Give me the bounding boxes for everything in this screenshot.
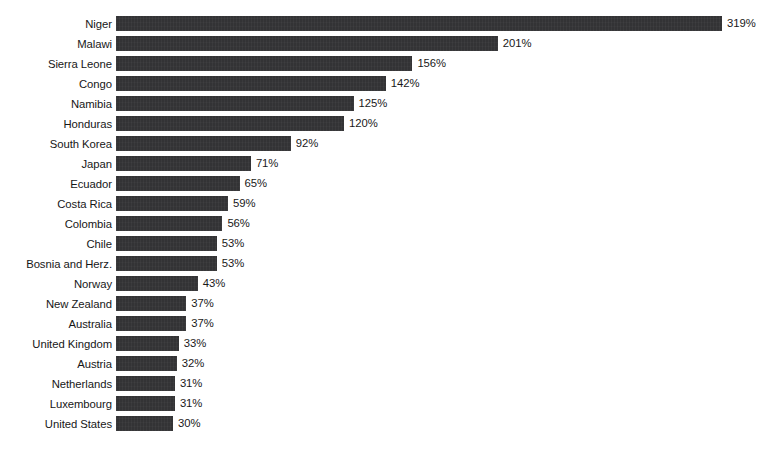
bar-row: United States30%	[0, 414, 777, 434]
bar	[116, 416, 173, 431]
bar-category-label: New Zealand	[0, 294, 112, 314]
bar-category-label: Niger	[0, 14, 112, 34]
bar-value-label: 37%	[191, 296, 213, 311]
bar-value-label: 53%	[222, 256, 244, 271]
bar-value-label: 30%	[178, 416, 200, 431]
bar	[116, 276, 198, 291]
bar-category-label: Chile	[0, 234, 112, 254]
bar-row: Namibia125%	[0, 94, 777, 114]
bar-value-label: 142%	[391, 76, 420, 91]
bar	[116, 136, 291, 151]
bar-and-value: 30%	[116, 414, 200, 434]
bar-and-value: 37%	[116, 314, 214, 334]
bar-and-value: 65%	[116, 174, 267, 194]
bar-category-label: Ecuador	[0, 174, 112, 194]
bar-row: Luxembourg31%	[0, 394, 777, 414]
bar	[116, 316, 186, 331]
bar-value-label: 120%	[349, 116, 378, 131]
bar-category-label: United States	[0, 414, 112, 434]
bar-row: Chile53%	[0, 234, 777, 254]
bar-row: Honduras120%	[0, 114, 777, 134]
bar-row: Sierra Leone156%	[0, 54, 777, 74]
bar	[116, 16, 722, 31]
bar-and-value: 43%	[116, 274, 225, 294]
bar-and-value: 120%	[116, 114, 378, 134]
bar-row: Norway43%	[0, 274, 777, 294]
bar-and-value: 31%	[116, 374, 202, 394]
bar-row: Malawi201%	[0, 34, 777, 54]
bar-value-label: 53%	[222, 236, 244, 251]
bar-and-value: 56%	[116, 214, 250, 234]
bar	[116, 216, 222, 231]
bar-and-value: 53%	[116, 234, 244, 254]
bar-value-label: 32%	[182, 356, 204, 371]
horizontal-bar-chart: Niger319%Malawi201%Sierra Leone156%Congo…	[0, 0, 777, 462]
bar	[116, 76, 386, 91]
bar	[116, 396, 175, 411]
bar-value-label: 156%	[417, 56, 446, 71]
bar	[116, 296, 186, 311]
bar	[116, 56, 412, 71]
bar-value-label: 31%	[180, 396, 202, 411]
bar-value-label: 65%	[245, 176, 267, 191]
bar-and-value: 71%	[116, 154, 278, 174]
bar-and-value: 201%	[116, 34, 532, 54]
bar-category-label: Japan	[0, 154, 112, 174]
bar-row: Australia37%	[0, 314, 777, 334]
bar-category-label: Bosnia and Herz.	[0, 254, 112, 274]
bar-category-label: Costa Rica	[0, 194, 112, 214]
bar-and-value: 32%	[116, 354, 204, 374]
bar-category-label: Australia	[0, 314, 112, 334]
bar-value-label: 43%	[203, 276, 225, 291]
bar	[116, 36, 498, 51]
bar-row: Congo142%	[0, 74, 777, 94]
bar-and-value: 319%	[116, 14, 756, 34]
bar-value-label: 59%	[233, 196, 255, 211]
bar	[116, 236, 217, 251]
bar-category-label: Namibia	[0, 94, 112, 114]
bar-and-value: 53%	[116, 254, 244, 274]
bar-row: South Korea92%	[0, 134, 777, 154]
bar-and-value: 31%	[116, 394, 202, 414]
bar-row: Bosnia and Herz.53%	[0, 254, 777, 274]
bar-value-label: 319%	[727, 16, 756, 31]
bar	[116, 256, 217, 271]
bar-row: Costa Rica59%	[0, 194, 777, 214]
bar-row: Austria32%	[0, 354, 777, 374]
bar	[116, 356, 177, 371]
bar-category-label: Norway	[0, 274, 112, 294]
bar-row: Netherlands31%	[0, 374, 777, 394]
bar-and-value: 142%	[116, 74, 420, 94]
bar-category-label: South Korea	[0, 134, 112, 154]
bar-category-label: Luxembourg	[0, 394, 112, 414]
bar-and-value: 59%	[116, 194, 256, 214]
bar-and-value: 125%	[116, 94, 387, 114]
bar-and-value: 92%	[116, 134, 318, 154]
bar-row: Ecuador65%	[0, 174, 777, 194]
bar-and-value: 33%	[116, 334, 206, 354]
bar-category-label: United Kingdom	[0, 334, 112, 354]
bar-row: New Zealand37%	[0, 294, 777, 314]
bar-category-label: Austria	[0, 354, 112, 374]
bar-value-label: 125%	[359, 96, 388, 111]
bar	[116, 196, 228, 211]
bar-value-label: 71%	[256, 156, 278, 171]
bar-category-label: Congo	[0, 74, 112, 94]
bar-value-label: 92%	[296, 136, 318, 151]
bar	[116, 336, 179, 351]
bar-value-label: 33%	[184, 336, 206, 351]
bar	[116, 156, 251, 171]
bar-value-label: 37%	[191, 316, 213, 331]
bar-and-value: 37%	[116, 294, 214, 314]
bar-category-label: Sierra Leone	[0, 54, 112, 74]
bar-category-label: Colombia	[0, 214, 112, 234]
bar-value-label: 56%	[227, 216, 249, 231]
bar	[116, 96, 354, 111]
bar-value-label: 31%	[180, 376, 202, 391]
bar-row: Japan71%	[0, 154, 777, 174]
bar-category-label: Honduras	[0, 114, 112, 134]
bar	[116, 116, 344, 131]
bar-row: Niger319%	[0, 14, 777, 34]
bar	[116, 376, 175, 391]
bar-row: Colombia56%	[0, 214, 777, 234]
